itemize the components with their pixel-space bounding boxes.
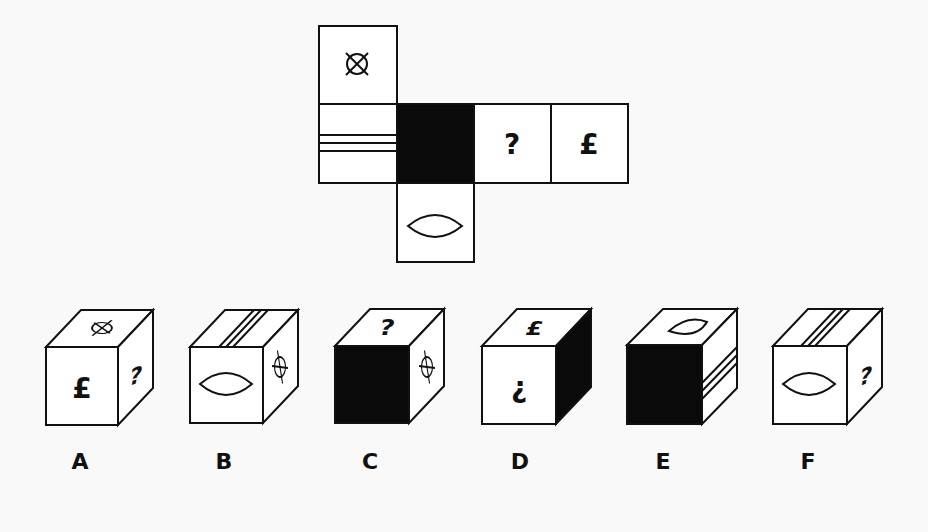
option-cube-d[interactable]: £ ¿ [482,309,591,424]
net-face-top [319,26,397,104]
question-mark-icon: ? [504,128,520,161]
option-label-d[interactable]: D [500,451,540,473]
pound-sign-icon: £ [526,318,543,340]
option-cube-a[interactable]: £ ? [46,310,153,425]
cube-net: ? £ [319,26,628,262]
option-cube-b[interactable] [190,310,298,423]
net-face-right: ? [474,104,551,183]
question-mark-icon: ? [379,316,394,341]
pound-sign-icon: £ [579,128,598,161]
net-face-left [319,104,397,183]
option-cube-f[interactable]: ? [773,309,882,424]
option-label-a[interactable]: A [60,451,100,473]
option-label-c[interactable]: C [350,451,390,473]
option-label-b[interactable]: B [204,451,244,473]
option-label-f[interactable]: F [788,451,828,473]
question-mark-icon: ? [130,361,143,391]
net-face-far-right: £ [551,104,628,183]
net-face-bottom [397,183,474,262]
black-face [627,345,702,424]
inverted-question-mark-icon: ¿ [511,371,527,404]
net-face-center-black [397,104,474,183]
option-label-e[interactable]: E [643,451,683,473]
question-mark-icon: ? [860,361,873,391]
pound-sign-icon: £ [72,372,91,405]
black-face [335,346,409,423]
option-cube-c[interactable]: ? [335,309,444,423]
option-cube-e[interactable] [627,309,737,424]
